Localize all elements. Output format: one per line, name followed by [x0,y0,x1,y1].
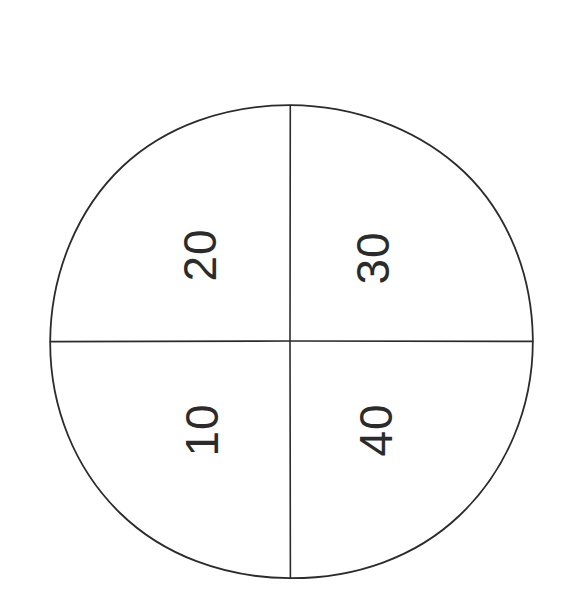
horizontal-divider-line [50,341,532,342]
quadrant-label-lower-right: 40 [353,403,399,456]
quadrant-label-lower-left: 10 [179,403,225,456]
quadrant-circle-svg [0,0,570,595]
quadrant-label-upper-right: 30 [350,231,396,284]
quadrant-label-upper-left: 20 [177,228,223,281]
diagram-canvas: 20 30 10 40 [0,0,570,595]
